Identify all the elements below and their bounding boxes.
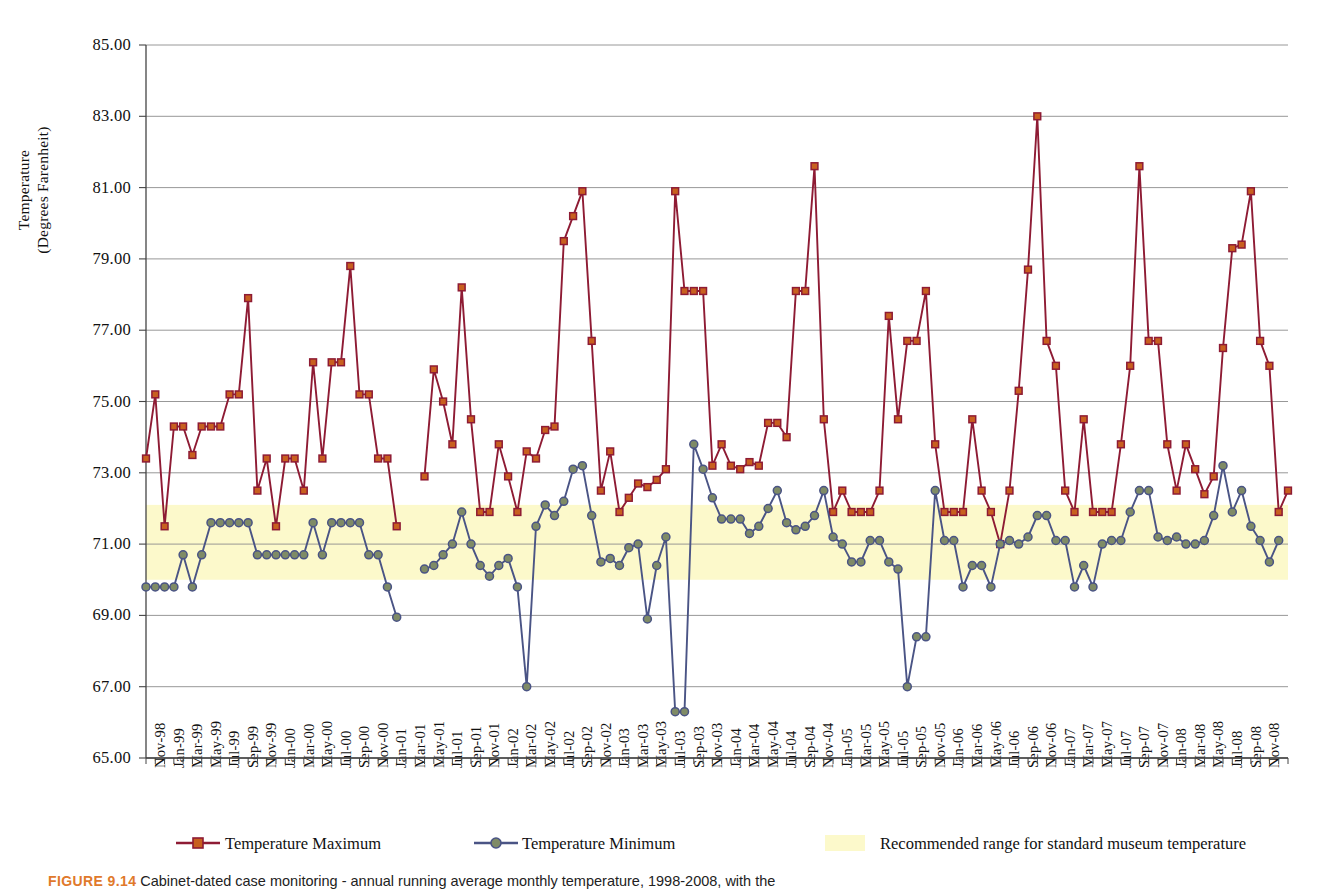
data-point-2 — [346, 519, 354, 527]
data-point-2 — [699, 465, 707, 473]
data-point-1 — [1238, 241, 1245, 248]
data-point-1 — [1145, 338, 1152, 345]
data-point-1 — [560, 238, 567, 245]
data-point-1 — [523, 448, 530, 455]
data-point-2 — [931, 487, 939, 495]
data-point-2 — [272, 551, 280, 559]
data-point-1 — [913, 338, 920, 345]
data-point-2 — [708, 494, 716, 502]
data-point-2 — [393, 613, 401, 621]
data-point-1 — [663, 466, 670, 473]
data-point-1 — [533, 455, 540, 462]
data-point-1 — [811, 163, 818, 170]
legend-item-temperature-maximum[interactable]: Temperature Maximum — [225, 834, 381, 854]
data-point-1 — [1118, 441, 1125, 448]
data-point-2 — [448, 540, 456, 548]
data-point-2 — [439, 551, 447, 559]
data-point-1 — [477, 509, 484, 516]
data-point-2 — [885, 558, 893, 566]
data-point-2 — [300, 551, 308, 559]
data-point-2 — [513, 583, 521, 591]
data-point-1 — [607, 448, 614, 455]
data-point-1 — [904, 338, 911, 345]
data-point-1 — [449, 441, 456, 448]
data-point-1 — [486, 509, 493, 516]
data-point-2 — [383, 583, 391, 591]
data-point-1 — [1053, 362, 1060, 369]
data-point-1 — [1266, 362, 1273, 369]
data-point-2 — [727, 515, 735, 523]
data-point-1 — [690, 288, 697, 295]
data-point-2 — [913, 633, 921, 641]
data-point-1 — [551, 423, 558, 430]
legend-marker-swatch — [825, 835, 865, 851]
data-point-2 — [560, 497, 568, 505]
data-point-2 — [950, 537, 958, 545]
data-point-2 — [1256, 537, 1264, 545]
data-point-2 — [959, 583, 967, 591]
data-point-1 — [152, 391, 159, 398]
data-point-1 — [514, 509, 521, 516]
data-point-1 — [895, 416, 902, 423]
data-point-2 — [1247, 522, 1255, 530]
figure-number: FIGURE 9.14 — [48, 873, 136, 889]
data-point-1 — [765, 420, 772, 427]
data-point-1 — [598, 487, 605, 494]
data-point-2 — [430, 562, 438, 570]
data-point-1 — [839, 487, 846, 494]
data-point-2 — [718, 515, 726, 523]
data-point-1 — [1099, 509, 1106, 516]
data-point-2 — [597, 558, 605, 566]
data-point-1 — [495, 441, 502, 448]
data-point-1 — [579, 188, 586, 195]
data-point-1 — [440, 398, 447, 405]
data-point-1 — [941, 509, 948, 516]
data-point-2 — [681, 708, 689, 716]
data-point-2 — [578, 462, 586, 470]
data-point-2 — [253, 551, 261, 559]
data-point-2 — [337, 519, 345, 527]
data-point-2 — [690, 440, 698, 448]
figure-caption-text: Cabinet-dated case monitoring - annual r… — [140, 873, 775, 889]
data-point-2 — [1033, 512, 1041, 520]
data-point-1 — [161, 523, 168, 530]
data-point-2 — [1108, 537, 1116, 545]
data-point-2 — [467, 540, 475, 548]
data-point-1 — [876, 487, 883, 494]
data-point-2 — [801, 522, 809, 530]
data-point-2 — [1126, 508, 1134, 516]
data-point-1 — [273, 523, 280, 530]
data-point-1 — [867, 509, 874, 516]
data-point-1 — [458, 284, 465, 291]
legend-item-recommended-range[interactable]: Recommended range for standard museum te… — [880, 834, 1246, 854]
data-point-2 — [263, 551, 271, 559]
data-point-1 — [969, 416, 976, 423]
data-point-1 — [365, 391, 372, 398]
data-point-1 — [774, 420, 781, 427]
data-point-2 — [746, 529, 754, 537]
data-point-2 — [551, 512, 559, 520]
data-point-1 — [755, 462, 762, 469]
data-point-1 — [1006, 487, 1013, 494]
data-point-2 — [1191, 540, 1199, 548]
data-point-2 — [198, 551, 206, 559]
data-point-1 — [226, 391, 233, 398]
data-point-1 — [960, 509, 967, 516]
data-point-1 — [384, 455, 391, 462]
data-point-1 — [709, 462, 716, 469]
data-point-1 — [180, 423, 187, 430]
data-point-1 — [1201, 491, 1208, 498]
data-point-1 — [1062, 487, 1069, 494]
legend-marker-square — [174, 833, 222, 853]
data-point-2 — [866, 537, 874, 545]
data-point-2 — [1145, 487, 1153, 495]
data-point-1 — [1192, 466, 1199, 473]
data-point-2 — [671, 708, 679, 716]
data-point-1 — [310, 359, 317, 366]
data-point-1 — [300, 487, 307, 494]
data-point-1 — [1155, 338, 1162, 345]
legend-item-temperature-minimum[interactable]: Temperature Minimum — [522, 834, 675, 854]
data-point-1 — [393, 523, 400, 530]
data-point-2 — [773, 487, 781, 495]
data-point-1 — [653, 477, 660, 484]
